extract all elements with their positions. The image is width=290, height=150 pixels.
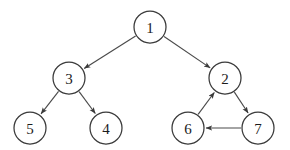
graph-edge-1-to-3 bbox=[84, 36, 135, 68]
node-label-2: 2 bbox=[221, 71, 229, 87]
graph-edge-3-to-4 bbox=[79, 92, 95, 114]
node-label-6: 6 bbox=[184, 121, 192, 137]
graph-edge-6-to-2 bbox=[198, 92, 214, 114]
graph-node-2: 2 bbox=[209, 62, 241, 94]
graph-edge-2-to-7 bbox=[234, 92, 248, 113]
graph-edge-3-to-5 bbox=[41, 91, 58, 113]
graph-node-5: 5 bbox=[14, 112, 46, 144]
graph-node-1: 1 bbox=[134, 11, 166, 43]
node-label-3: 3 bbox=[65, 71, 73, 87]
node-label-4: 4 bbox=[102, 121, 110, 137]
nodes-layer: 1234567 bbox=[14, 11, 274, 144]
directed-graph-figure: 1234567 bbox=[0, 0, 290, 150]
graph-canvas: 1234567 bbox=[0, 0, 290, 150]
graph-node-4: 4 bbox=[90, 112, 122, 144]
node-label-7: 7 bbox=[254, 121, 262, 137]
node-label-1: 1 bbox=[146, 20, 154, 36]
graph-node-6: 6 bbox=[172, 112, 204, 144]
graph-node-3: 3 bbox=[53, 62, 85, 94]
graph-edge-1-to-2 bbox=[164, 37, 210, 68]
node-label-5: 5 bbox=[26, 121, 34, 137]
graph-node-7: 7 bbox=[242, 112, 274, 144]
